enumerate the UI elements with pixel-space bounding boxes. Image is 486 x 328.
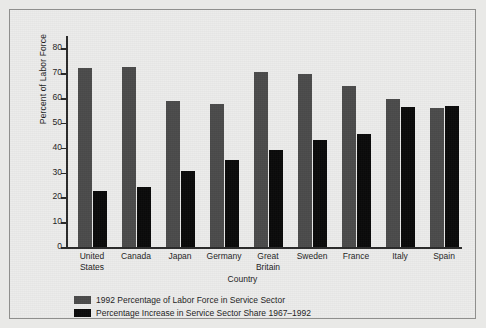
legend-item: Percentage Increase in Service Sector Sh… (74, 306, 311, 319)
y-tick-label: 40 (40, 142, 62, 152)
bar (430, 108, 444, 247)
bar (137, 187, 151, 247)
figure-container: Percent of Labor Force 01020304050607080… (0, 0, 486, 328)
y-axis-line (66, 36, 68, 248)
bar (210, 104, 224, 247)
y-tick-label: 50 (40, 117, 62, 127)
y-tick-label: 60 (40, 92, 62, 102)
legend-swatch (74, 309, 91, 317)
bar (401, 107, 415, 247)
y-tick-label: 70 (40, 67, 62, 77)
x-axis-line (66, 247, 462, 249)
bar (342, 86, 356, 247)
plot-area: 01020304050607080 United StatesCanadaJap… (66, 36, 462, 248)
chart-plate: Percent of Labor Force 01020304050607080… (9, 9, 476, 319)
bar (225, 160, 239, 247)
bar (445, 106, 459, 247)
bar (298, 74, 312, 247)
bar (269, 150, 283, 247)
bar (78, 68, 92, 247)
bar (313, 140, 327, 247)
legend-item: 1992 Percentage of Labor Force in Servic… (74, 293, 311, 306)
legend: 1992 Percentage of Labor Force in Servic… (74, 293, 311, 319)
legend-swatch (74, 296, 91, 304)
bar (181, 171, 195, 247)
bar (166, 101, 180, 247)
y-tick-label: 20 (40, 191, 62, 201)
y-tick-label: 30 (40, 167, 62, 177)
y-tick-label: 10 (40, 216, 62, 226)
y-tick-label: 80 (40, 42, 62, 52)
y-tick-label: 0 (40, 241, 62, 251)
bar (357, 134, 371, 247)
y-axis-title: Percent of Labor Force (38, 9, 48, 159)
x-axis-title: Country (10, 274, 475, 284)
legend-label: Percentage Increase in Service Sector Sh… (96, 308, 311, 318)
x-tick-label: Spain (416, 251, 472, 262)
bar (254, 72, 268, 247)
legend-label: 1992 Percentage of Labor Force in Servic… (96, 295, 285, 305)
bar (122, 67, 136, 247)
bar (386, 99, 400, 247)
bar (93, 191, 107, 247)
